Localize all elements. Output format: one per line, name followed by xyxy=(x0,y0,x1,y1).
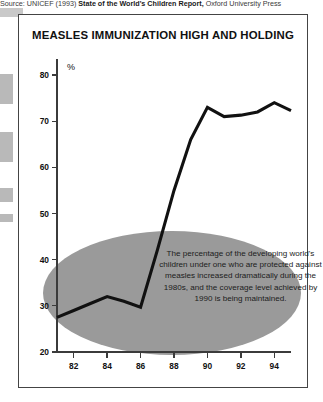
x-tick-label: 90 xyxy=(203,361,213,371)
x-axis-tick-labels: 82848688909294 xyxy=(69,361,279,371)
page-edge-mark xyxy=(0,74,13,104)
source-title: State of the World's Children Report, xyxy=(78,0,203,8)
y-tick-label: 40 xyxy=(40,255,50,265)
y-tick-label: 50 xyxy=(40,209,50,219)
source-citation: Source: UNICEF (1993) State of the World… xyxy=(0,0,323,9)
page-edge-mark xyxy=(0,188,13,202)
x-tick-label: 86 xyxy=(136,361,146,371)
x-tick-label: 82 xyxy=(69,361,79,371)
y-tick-label: 20 xyxy=(40,347,50,357)
page-edge-mark xyxy=(0,132,13,162)
y-tick-label: 80 xyxy=(40,70,50,80)
source-lead: Source: UNICEF (1993) xyxy=(0,0,78,8)
chart-annotation: The percentage of the developing world's… xyxy=(159,248,322,304)
plot-area: 20304050607080 82848688909294 % xyxy=(19,15,309,389)
x-tick-label: 92 xyxy=(236,361,246,371)
source-publisher: Oxford University Press xyxy=(204,0,281,8)
y-tick-label: 60 xyxy=(40,162,50,172)
x-tick-label: 84 xyxy=(102,361,112,371)
page-edge-mark xyxy=(0,214,13,222)
x-axis-ticks xyxy=(74,352,275,358)
figure-frame: MEASLES IMMUNIZATION HIGH AND HOLDING 20… xyxy=(18,14,308,388)
y-axis-label: % xyxy=(67,62,75,72)
x-tick-label: 88 xyxy=(169,361,179,371)
y-axis-tick-labels: 20304050607080 xyxy=(40,70,50,357)
x-tick-label: 94 xyxy=(270,361,280,371)
y-tick-label: 70 xyxy=(40,116,50,126)
y-tick-label: 30 xyxy=(40,301,50,311)
line-chart-svg: 20304050607080 82848688909294 % xyxy=(19,15,309,389)
